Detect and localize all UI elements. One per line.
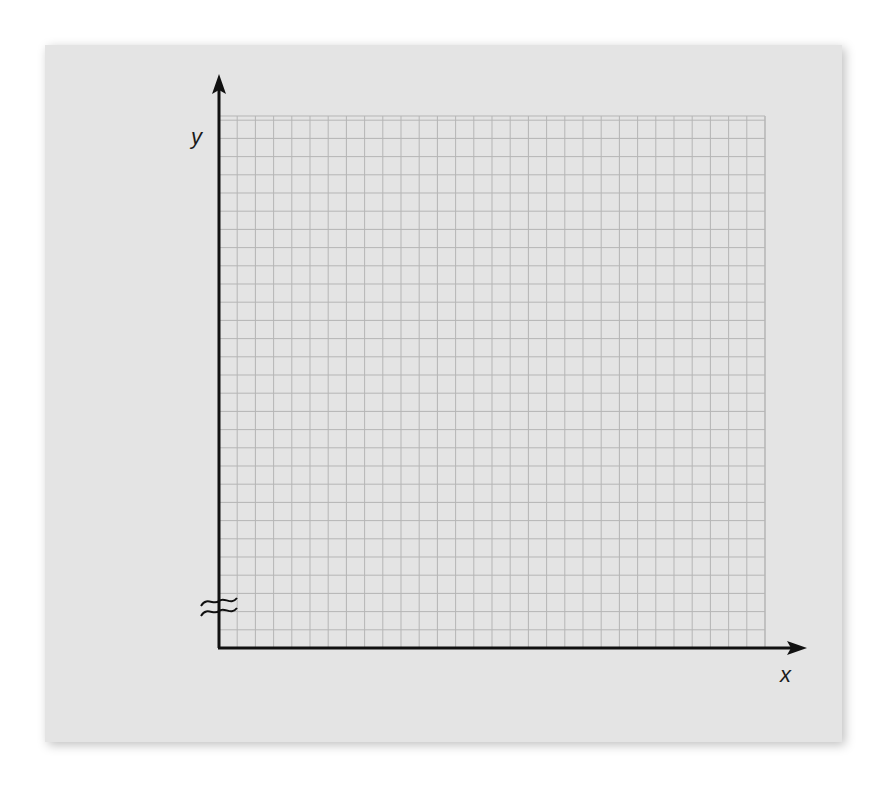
- grid-lines: [219, 116, 765, 648]
- y-axis-label: y: [191, 126, 202, 148]
- graph-canvas: [0, 0, 890, 787]
- x-axis-label: x: [780, 664, 791, 686]
